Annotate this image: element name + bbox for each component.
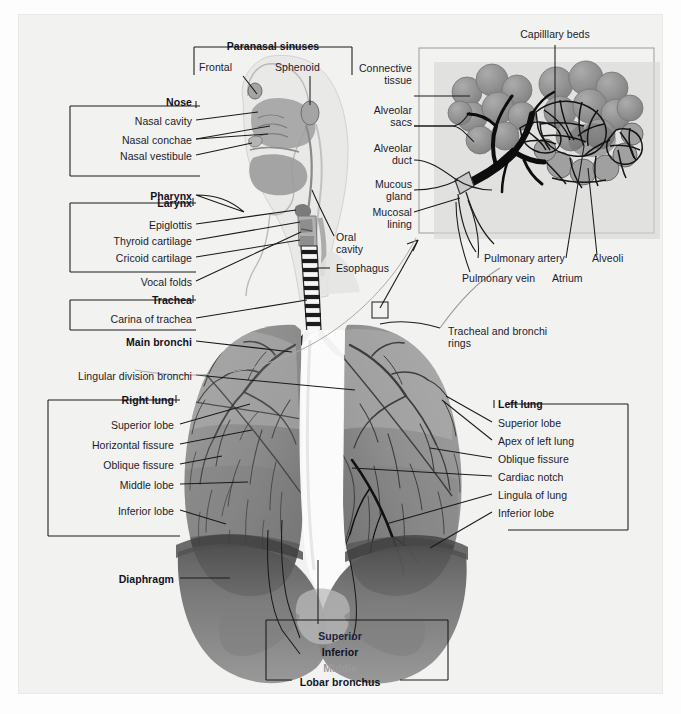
label-pulmonary-vein: Pulmonary vein — [462, 272, 535, 284]
label-oral-cavity-line1: Oral — [336, 231, 356, 243]
label-alveolar-sacs-line2: sacs — [336, 116, 412, 128]
label-lobar-bronchus: Lobar bronchus — [284, 676, 396, 688]
label-cardiac-notch: Cardiac notch — [498, 471, 563, 483]
alveoli-inset-illustration — [419, 48, 660, 252]
label-apex-of-left-lung: Apex of left lung — [498, 435, 574, 447]
label-left-superior-lobe: Superior lobe — [498, 417, 561, 429]
label-lingula-of-lung: Lingula of lung — [498, 489, 567, 501]
label-nose: Nose — [70, 96, 192, 108]
label-left-lung: Left lung — [498, 398, 543, 410]
label-main-bronchi: Main bronchi — [70, 336, 192, 348]
label-right-lung: Right lung — [46, 394, 174, 406]
label-carina-of-trachea: Carina of trachea — [70, 313, 192, 325]
label-alveolar-duct-line2: duct — [336, 154, 412, 166]
label-atrium: Atrium — [552, 272, 583, 284]
label-epiglottis: Epiglottis — [70, 219, 192, 231]
label-lobar-middle: Middle — [284, 662, 396, 674]
label-nasal-vestibule: Nasal vestibule — [70, 150, 192, 162]
label-tracheal-rings-line1: Tracheal and bronchi — [448, 325, 547, 337]
label-connective-tissue-line1: Connective — [336, 62, 412, 74]
label-lobar-superior: Superior — [284, 630, 396, 642]
label-thyroid-cartilage: Thyroid cartilage — [70, 235, 192, 247]
label-mucosal-lining-line1: Mucosal — [336, 206, 412, 218]
label-lobar-inferior: Inferior — [284, 646, 396, 658]
label-diaphragm: Diaphragm — [46, 573, 174, 585]
label-right-oblique-fissure: Oblique fissure — [46, 459, 174, 471]
label-nasal-cavity: Nasal cavity — [70, 115, 192, 127]
label-connective-tissue-line2: tissue — [336, 74, 412, 86]
label-oral-cavity-line2: cavity — [336, 243, 363, 255]
label-cricoid-cartilage: Cricoid cartilage — [70, 252, 192, 264]
label-pulmonary-artery: Pulmonary artery — [484, 252, 565, 264]
label-mucous-gland-line1: Mucous — [336, 178, 412, 190]
label-frontal: Frontal — [199, 61, 232, 73]
label-paranasal-sinuses: Paranasal sinuses — [194, 40, 352, 52]
label-alveolar-sacs-line1: Alveolar — [336, 104, 412, 116]
label-vocal-folds: Vocal folds — [70, 276, 192, 288]
label-middle-lobe: Middle lobe — [46, 479, 174, 491]
label-left-oblique-fissure: Oblique fissure — [498, 453, 569, 465]
label-capillary-beds: Capilllary beds — [505, 28, 605, 40]
label-nasal-conchae: Nasal conchae — [70, 134, 192, 146]
label-right-superior-lobe: Superior lobe — [46, 419, 174, 431]
label-larynx-heading: Larynx — [70, 197, 192, 209]
label-mucosal-lining-line2: lining — [336, 218, 412, 230]
label-sphenoid: Sphenoid — [275, 61, 320, 73]
label-right-inferior-lobe: Inferior lobe — [46, 505, 174, 517]
label-trachea: Trachea — [70, 294, 192, 306]
label-horizontal-fissure: Horizontal fissure — [46, 439, 174, 451]
label-esophagus: Esophagus — [336, 262, 389, 274]
label-tracheal-rings-line2: rings — [448, 337, 471, 349]
label-mucous-gland-line2: gland — [336, 190, 412, 202]
label-alveoli: Alveoli — [592, 252, 623, 264]
label-left-inferior-lobe: Inferior lobe — [498, 507, 554, 519]
label-lingular-division-bronchi: Lingular division bronchi — [50, 370, 192, 382]
figure-canvas: Paranasal sinuses Frontal Sphenoid Nose … — [0, 0, 681, 714]
label-alveolar-duct-line1: Alveolar — [336, 142, 412, 154]
